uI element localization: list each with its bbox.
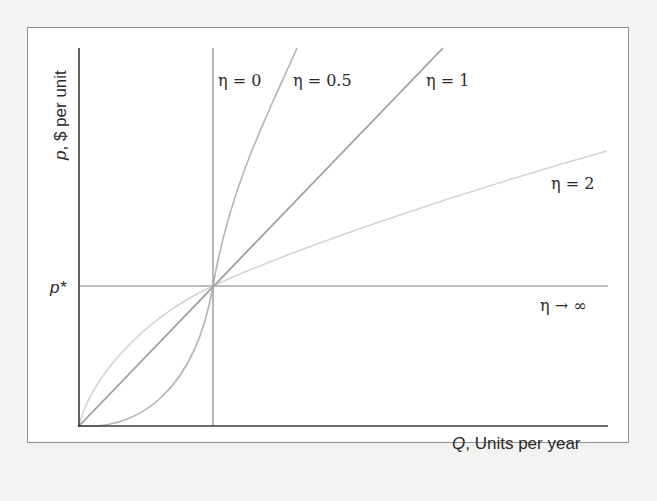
- p-star-text: p*: [50, 278, 66, 297]
- x-axis-label: Q, Units per year: [452, 435, 581, 452]
- curve-eta-0.5: [79, 48, 297, 426]
- label-eta-1: η = 1: [426, 73, 469, 89]
- label-eta-0: η = 0: [218, 73, 261, 89]
- x-axis-unit: , Units per year: [465, 434, 580, 453]
- label-eta-2: η = 2: [551, 176, 594, 192]
- line-eta-1: [79, 48, 443, 426]
- x-axis-var: Q: [452, 434, 465, 453]
- y-axis-unit: , $ per unit: [51, 70, 70, 150]
- y-axis-label: p, $ per unit: [52, 70, 69, 160]
- curve-eta-2: [79, 151, 607, 426]
- p-star-tick-label: p*: [50, 279, 66, 296]
- y-axis-var: p: [51, 151, 70, 160]
- label-eta-0.5: η = 0.5: [293, 73, 352, 89]
- label-eta-inf: η → ∞: [540, 298, 587, 314]
